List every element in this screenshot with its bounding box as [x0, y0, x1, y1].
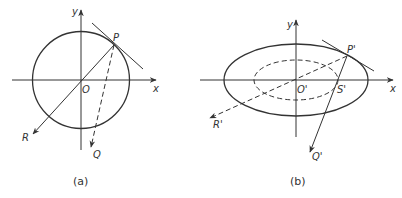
caption-b: (b) — [290, 175, 306, 188]
r-prime-label: R' — [213, 119, 223, 130]
figure-canvas: y x O P R Q (a) y x O' P' S' R' Q' (b) — [0, 0, 402, 198]
origin-label-b: O' — [297, 84, 308, 95]
p-label: P — [113, 32, 120, 43]
x-label-b: x — [389, 83, 396, 94]
y-label-a: y — [71, 6, 79, 17]
x-label-a: x — [152, 83, 159, 94]
tangent-line-a — [92, 23, 143, 69]
q-prime-label: Q' — [312, 151, 323, 162]
figure-b: y x O' P' S' R' Q' (b) — [200, 19, 396, 188]
origin-label-a: O — [82, 84, 90, 95]
s-prime-label: S' — [337, 84, 346, 95]
p-prime-label: P' — [347, 44, 356, 55]
y-label-b: y — [286, 19, 294, 30]
q-label: Q — [93, 149, 101, 160]
caption-a: (a) — [73, 175, 88, 188]
line-p-r — [33, 45, 114, 134]
figure-a: y x O P R Q (a) — [12, 6, 159, 188]
r-label: R — [22, 132, 29, 143]
dashed-line-p-q — [91, 45, 114, 147]
